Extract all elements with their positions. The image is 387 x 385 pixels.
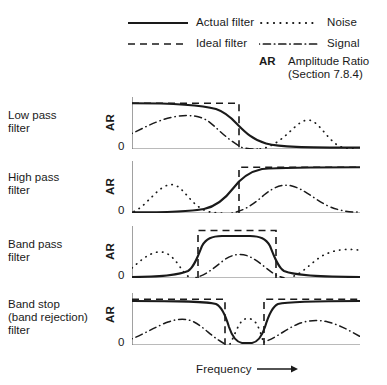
y-axis-label: AR [104, 114, 116, 131]
ideal-filter-curve [239, 167, 360, 213]
panel-label-band-pass: Band pass filter [8, 238, 104, 264]
actual-filter-curve [132, 236, 360, 277]
panel-label-low-pass: Low pass filter [8, 109, 104, 135]
x-axis-caption: Frequency [196, 360, 299, 378]
x-axis-label: Frequency [196, 363, 252, 375]
ar-description: Amplitude Ratio [288, 55, 369, 67]
legend-item-noise: Noise [259, 14, 357, 31]
panel-label-high-pass: High pass filter [8, 171, 104, 197]
plot-area-high-pass [132, 161, 360, 213]
panel-stack: Low pass filter AR 0 High pass filte [0, 95, 387, 353]
signal-curve-right [264, 320, 360, 342]
panel-low-pass-filter: Low pass filter AR 0 [0, 95, 387, 157]
signal-curve [132, 116, 260, 149]
right-arrow-icon [257, 360, 299, 378]
legend-label-noise: Noise [327, 17, 357, 29]
dashed-line-icon [128, 38, 188, 50]
plot-svg-high-pass [132, 161, 360, 213]
panel-band-pass-filter: Band pass filter AR 0 [0, 224, 387, 286]
legend-label-actual-filter: Actual filter [196, 17, 254, 29]
ideal-filter-curve [132, 103, 239, 149]
noise-curve-right [294, 249, 360, 276]
y-axis-zero-tick: 0 [118, 270, 124, 282]
y-axis-label: AR [104, 243, 116, 260]
y-axis-zero-tick: 0 [118, 337, 124, 349]
legend-item-signal: Signal [259, 35, 360, 52]
dash-dot-line-icon [259, 38, 319, 50]
actual-filter-curve [132, 167, 360, 212]
legend-item-actual-filter: Actual filter [128, 14, 254, 31]
ar-section-reference: (Section 7.8.4) [288, 68, 363, 80]
y-axis-label: AR [104, 306, 116, 323]
panel-label-band-stop: Band stop (band rejection) filter [8, 298, 104, 337]
y-axis-zero-tick: 0 [118, 141, 124, 153]
signal-curve-left [132, 319, 224, 343]
legend-label-ideal-filter: Ideal filter [196, 38, 247, 50]
plot-area-low-pass [132, 97, 360, 149]
plot-area-band-stop [132, 293, 360, 345]
panel-high-pass-filter: High pass filter AR 0 [0, 159, 387, 221]
filter-response-figure: Actual filter Ideal filter Noise Signal … [0, 0, 387, 385]
ar-abbreviation: AR [259, 55, 276, 67]
plot-svg-low-pass [132, 97, 360, 149]
legend-label-signal: Signal [327, 38, 360, 50]
solid-line-icon [128, 17, 188, 29]
signal-curve [196, 254, 284, 277]
y-axis-label: AR [104, 178, 116, 195]
noise-curve [134, 185, 224, 213]
dotted-line-icon [259, 17, 319, 29]
legend-item-ideal-filter: Ideal filter [128, 35, 247, 52]
plot-svg-band-stop [132, 293, 360, 345]
legend: Actual filter Ideal filter Noise Signal [128, 14, 380, 54]
signal-curve [232, 185, 360, 213]
actual-filter-curve [132, 103, 360, 147]
plot-area-band-pass [132, 226, 360, 278]
panel-band-stop-filter: Band stop (band rejection) filter AR 0 [0, 291, 387, 353]
y-axis-zero-tick: 0 [118, 205, 124, 217]
plot-svg-band-pass [132, 226, 360, 278]
